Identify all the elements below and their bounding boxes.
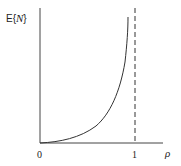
x-tick-1: 1 (132, 149, 137, 160)
x-axis-label: ρ (164, 147, 170, 159)
x-tick-0: 0 (37, 149, 42, 160)
y-axis-label: E{N} (6, 12, 27, 24)
chart: E{N} 0 1 ρ (0, 0, 181, 166)
curve-series (40, 17, 128, 143)
